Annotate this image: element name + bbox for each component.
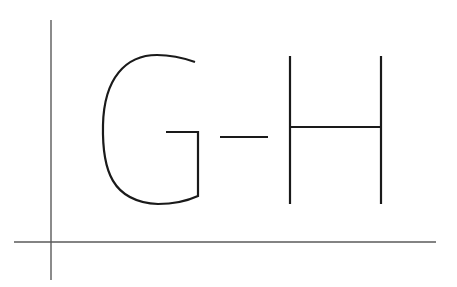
diagram-svg (0, 0, 457, 287)
letter-g (103, 55, 198, 204)
letter-h (290, 56, 381, 204)
letter-g-bowl (103, 55, 198, 204)
